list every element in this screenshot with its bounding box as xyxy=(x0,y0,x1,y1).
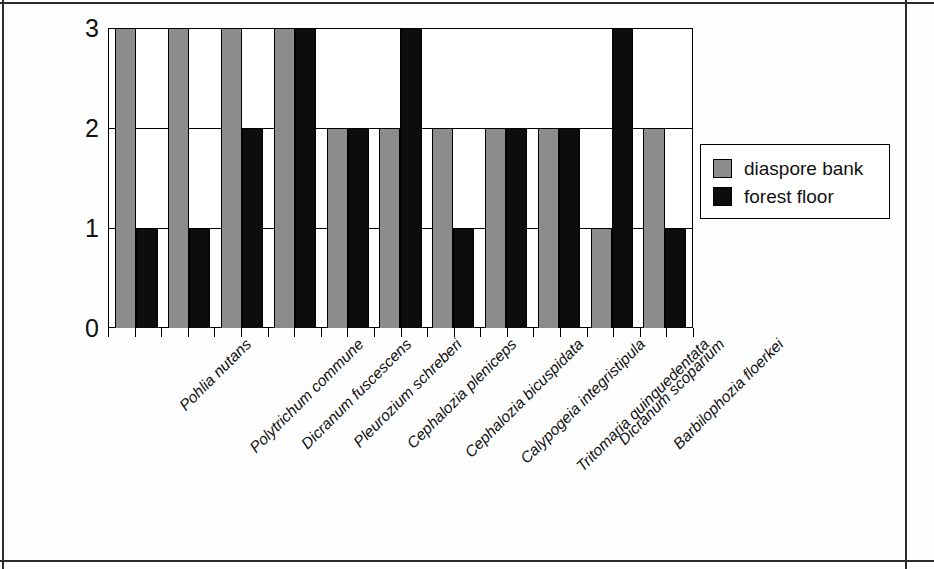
bar-group xyxy=(216,28,269,328)
y-axis-tick-label-0: 0 xyxy=(85,316,99,341)
x-axis-tick xyxy=(587,328,588,337)
bar-forest-floor[interactable] xyxy=(136,228,157,328)
bar-group xyxy=(585,28,638,328)
x-axis-label: Tritomaria quinquedentata xyxy=(574,336,712,474)
bar-diaspore-bank[interactable] xyxy=(432,128,453,328)
legend-swatch-forest-floor xyxy=(713,187,732,206)
frame-border-top xyxy=(0,2,934,4)
x-axis-tick xyxy=(268,328,269,337)
bar-diaspore-bank[interactable] xyxy=(538,128,559,328)
bar-diaspore-bank[interactable] xyxy=(221,28,242,328)
bar-forest-floor[interactable] xyxy=(348,128,369,328)
x-axis-tick xyxy=(374,328,375,337)
chart-legend: diaspore bank forest floor xyxy=(700,144,890,219)
bar-forest-floor[interactable] xyxy=(612,28,633,328)
bar-diaspore-bank[interactable] xyxy=(643,128,664,328)
x-axis-tick xyxy=(214,328,215,337)
y-axis-tick-label-1: 1 xyxy=(85,216,99,241)
frame-border-right xyxy=(905,0,907,569)
legend-label-forest-floor: forest floor xyxy=(744,187,834,206)
x-axis-tick xyxy=(294,328,295,337)
x-axis-tick xyxy=(640,328,641,337)
x-axis-tick xyxy=(188,328,189,337)
x-axis-tick xyxy=(560,328,561,337)
bar-forest-floor[interactable] xyxy=(453,228,474,328)
bar-group xyxy=(533,28,586,328)
bar-diaspore-bank[interactable] xyxy=(274,28,295,328)
bar-group xyxy=(638,28,691,328)
x-axis-tick xyxy=(533,328,534,337)
bar-diaspore-bank[interactable] xyxy=(485,128,506,328)
bar-group xyxy=(321,28,374,328)
x-axis-tick xyxy=(321,328,322,337)
bar-forest-floor[interactable] xyxy=(559,128,580,328)
bar-forest-floor[interactable] xyxy=(189,228,210,328)
x-axis-tick xyxy=(427,328,428,337)
x-axis-tick xyxy=(161,328,162,337)
frame-border-bottom xyxy=(0,560,934,562)
bar-diaspore-bank[interactable] xyxy=(591,228,612,328)
x-axis-label: Pohlia nutans xyxy=(176,336,253,413)
x-axis-tick xyxy=(693,328,694,337)
bar-diaspore-bank[interactable] xyxy=(327,128,348,328)
bar-diaspore-bank[interactable] xyxy=(379,128,400,328)
x-axis-tick xyxy=(108,328,109,337)
bars-layer xyxy=(108,28,693,328)
x-axis-tick xyxy=(347,328,348,337)
bar-forest-floor[interactable] xyxy=(665,228,686,328)
legend-item-forest-floor: forest floor xyxy=(713,187,879,206)
frame-border-left xyxy=(2,0,4,569)
x-axis-tick xyxy=(666,328,667,337)
y-axis-tick-label-2: 2 xyxy=(85,116,99,141)
bar-group xyxy=(480,28,533,328)
bar-forest-floor[interactable] xyxy=(506,128,527,328)
x-axis-tick xyxy=(135,328,136,337)
bar-forest-floor[interactable] xyxy=(295,28,316,328)
bar-group xyxy=(110,28,163,328)
legend-label-diaspore-bank: diaspore bank xyxy=(744,159,863,178)
bar-diaspore-bank[interactable] xyxy=(168,28,189,328)
bar-group xyxy=(427,28,480,328)
bar-group xyxy=(374,28,427,328)
bar-forest-floor[interactable] xyxy=(400,28,421,328)
bar-chart: 0123 xyxy=(108,28,693,328)
legend-swatch-diaspore-bank xyxy=(713,159,732,178)
x-axis-tick xyxy=(613,328,614,337)
x-axis-label: Cephalozia pleniceps xyxy=(404,336,519,451)
bar-diaspore-bank[interactable] xyxy=(115,28,136,328)
figure-frame: 0123 Pohlia nutansPolytrichum communeDic… xyxy=(0,0,934,569)
legend-item-diaspore-bank: diaspore bank xyxy=(713,159,879,178)
x-axis-label: Cephalozia bicuspidata xyxy=(461,336,585,460)
bar-group xyxy=(163,28,216,328)
x-axis-tick xyxy=(480,328,481,337)
bar-group xyxy=(268,28,321,328)
bar-forest-floor[interactable] xyxy=(242,128,263,328)
y-axis-tick-label-3: 3 xyxy=(85,16,99,41)
